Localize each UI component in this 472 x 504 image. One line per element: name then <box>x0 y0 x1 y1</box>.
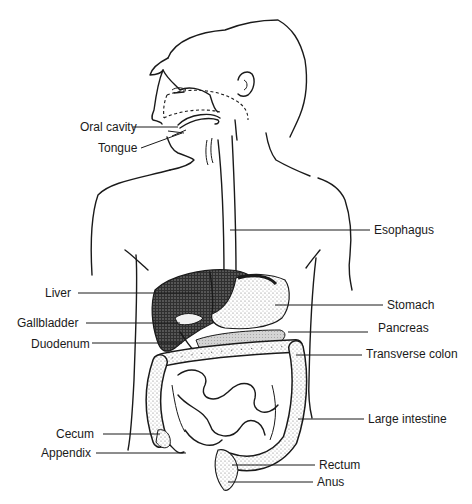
label-stomach: Stomach <box>387 298 434 312</box>
label-transverse-colon: Transverse colon <box>366 347 458 361</box>
appendix-shape <box>170 445 184 453</box>
label-appendix: Appendix <box>41 446 91 460</box>
transverse-colon-shape <box>162 346 296 360</box>
label-pancreas: Pancreas <box>378 321 429 335</box>
label-large-intestine: Large intestine <box>368 412 447 426</box>
label-tongue: Tongue <box>98 141 137 155</box>
cecum-shape <box>156 430 170 448</box>
label-esophagus: Esophagus <box>374 223 434 237</box>
leader-tongue <box>141 133 182 148</box>
label-duodenum: Duodenum <box>31 337 90 351</box>
small-intestine-shape <box>172 370 278 445</box>
head-outline <box>91 20 352 290</box>
label-oral-cavity: Oral cavity <box>80 120 137 134</box>
esophagus-tube <box>206 136 236 280</box>
label-rectum: Rectum <box>319 458 360 472</box>
label-anus: Anus <box>317 475 344 489</box>
ascending-colon-shape <box>153 362 160 440</box>
label-liver: Liver <box>45 286 71 300</box>
label-cecum: Cecum <box>56 427 94 441</box>
label-gallbladder: Gallbladder <box>17 316 78 330</box>
descending-colon-shape <box>228 348 299 463</box>
